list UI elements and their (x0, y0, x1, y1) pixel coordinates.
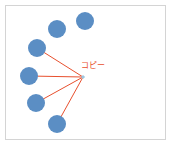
circle-node[interactable] (48, 115, 66, 133)
diagram-canvas[interactable] (0, 0, 172, 148)
circle-node[interactable] (76, 12, 94, 30)
circle-node[interactable] (48, 20, 66, 38)
circle-node[interactable] (20, 67, 38, 85)
circle-node[interactable] (27, 94, 45, 112)
copy-label: コピー (81, 59, 105, 70)
circle-node[interactable] (28, 39, 46, 57)
